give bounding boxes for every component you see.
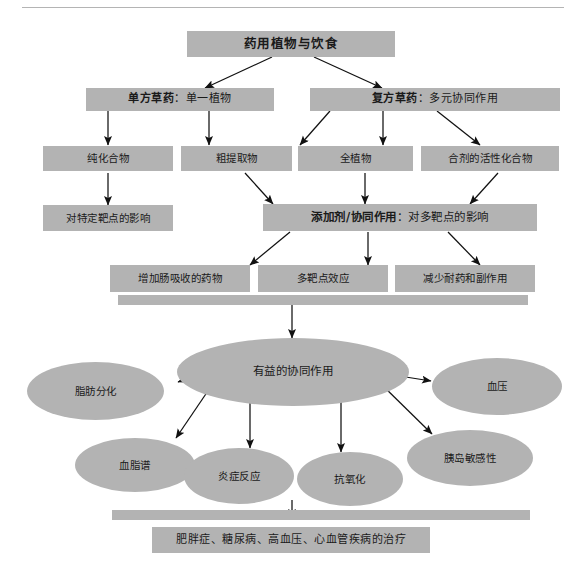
node-single-herb-label: 单方草药：单一植物 [124,93,236,106]
node-insulin-sensitivity[interactable]: 胰岛敏感性 [407,430,533,486]
diagram-canvas: 药用植物与饮食 单方草药：单一植物 复方草药：多元协同作用 纯化合物 粗提取物 … [0,0,584,581]
node-fat-differentiation[interactable]: 脂肪分化 [27,362,164,420]
node-purified-compound-label: 纯化合物 [83,152,133,164]
node-purified-compound[interactable]: 纯化合物 [43,146,173,171]
node-antioxidant[interactable]: 抗氧化 [297,452,403,506]
node-additive-synergy-label: 添加剂/协同作用：对多靶点的影响 [307,211,492,224]
edge-compound-to-crude2 [300,111,330,145]
node-treatment-outcome[interactable]: 肥胖症、糖尿病、高血压、心血管疾病的治疗 [152,527,430,553]
node-multi-target-effect[interactable]: 多靶点效应 [258,265,388,292]
node-enhance-absorption[interactable]: 增加肠吸收的药物 [110,265,250,292]
top-divider-rule [22,7,564,8]
node-mixture-active-compound-label: 合剂的活性化合物 [444,152,536,164]
node-crude-extract-label: 粗提取物 [212,152,262,164]
edge-root-to-single-herb [205,57,272,88]
node-blood-pressure-label: 血压 [483,380,512,392]
node-additive-synergy-rest: ：对多靶点的影响 [397,210,489,224]
node-compound-herb[interactable]: 复方草药：多元协同作用 [310,88,560,111]
node-inflammation[interactable]: 炎症反应 [184,448,294,504]
node-mixture-active-compound[interactable]: 合剂的活性化合物 [421,146,559,171]
edge-additive-to-reduce [448,232,480,265]
node-antioxidant-label: 抗氧化 [330,473,370,485]
node-root[interactable]: 药用植物与饮食 [187,31,395,57]
edge-additive-to-absorption [250,232,290,265]
node-inflammation-label: 炎症反应 [214,470,264,482]
node-root-label: 药用植物与饮食 [240,37,343,51]
node-crude-extract[interactable]: 粗提取物 [181,146,292,171]
node-whole-plant[interactable]: 全植物 [298,146,413,171]
node-blood-pressure[interactable]: 血压 [432,358,562,415]
node-enhance-absorption-label: 增加肠吸收的药物 [134,272,226,284]
edge-root-to-compound-herb [314,57,382,88]
node-additive-synergy[interactable]: 添加剂/协同作用：对多靶点的影响 [263,204,537,231]
node-specific-target-effect[interactable]: 对特定靶点的影响 [43,205,173,231]
node-whole-plant-label: 全植物 [336,152,376,164]
edge-mixture-to-additive [470,173,498,204]
node-specific-target-effect-label: 对特定靶点的影响 [62,212,154,224]
node-lipid-profile[interactable]: 血脂谱 [75,438,195,492]
connector-bar-upper [118,295,528,305]
node-reduce-resistance-label: 减少耐药和副作用 [419,272,511,284]
connector-bar-lower [112,510,530,520]
node-single-herb-rest: ：单一植物 [174,92,232,105]
node-insulin-sensitivity-label: 胰岛敏感性 [440,452,501,464]
node-compound-herb-label: 复方草药：多元协同作用 [368,93,503,106]
node-compound-herb-rest: ：多元协同作用 [418,92,499,105]
node-beneficial-synergy[interactable]: 有益的协同作用 [177,338,409,406]
node-reduce-resistance[interactable]: 减少耐药和副作用 [395,265,535,292]
node-lipid-profile-label: 血脂谱 [115,459,155,471]
node-compound-herb-bold: 复方草药 [372,92,418,105]
node-treatment-outcome-label: 肥胖症、糖尿病、高血压、心血管疾病的治疗 [172,534,410,547]
edge-crude-to-additive [245,173,273,204]
node-fat-differentiation-label: 脂肪分化 [71,385,121,397]
node-multi-target-effect-label: 多靶点效应 [293,272,354,284]
node-additive-synergy-bold: 添加剂/协同作用 [311,210,396,224]
node-beneficial-synergy-label: 有益的协同作用 [249,365,338,378]
node-single-herb[interactable]: 单方草药：单一植物 [86,88,274,111]
edge-compound-to-mixture [437,111,480,145]
node-single-herb-bold: 单方草药 [128,92,174,105]
